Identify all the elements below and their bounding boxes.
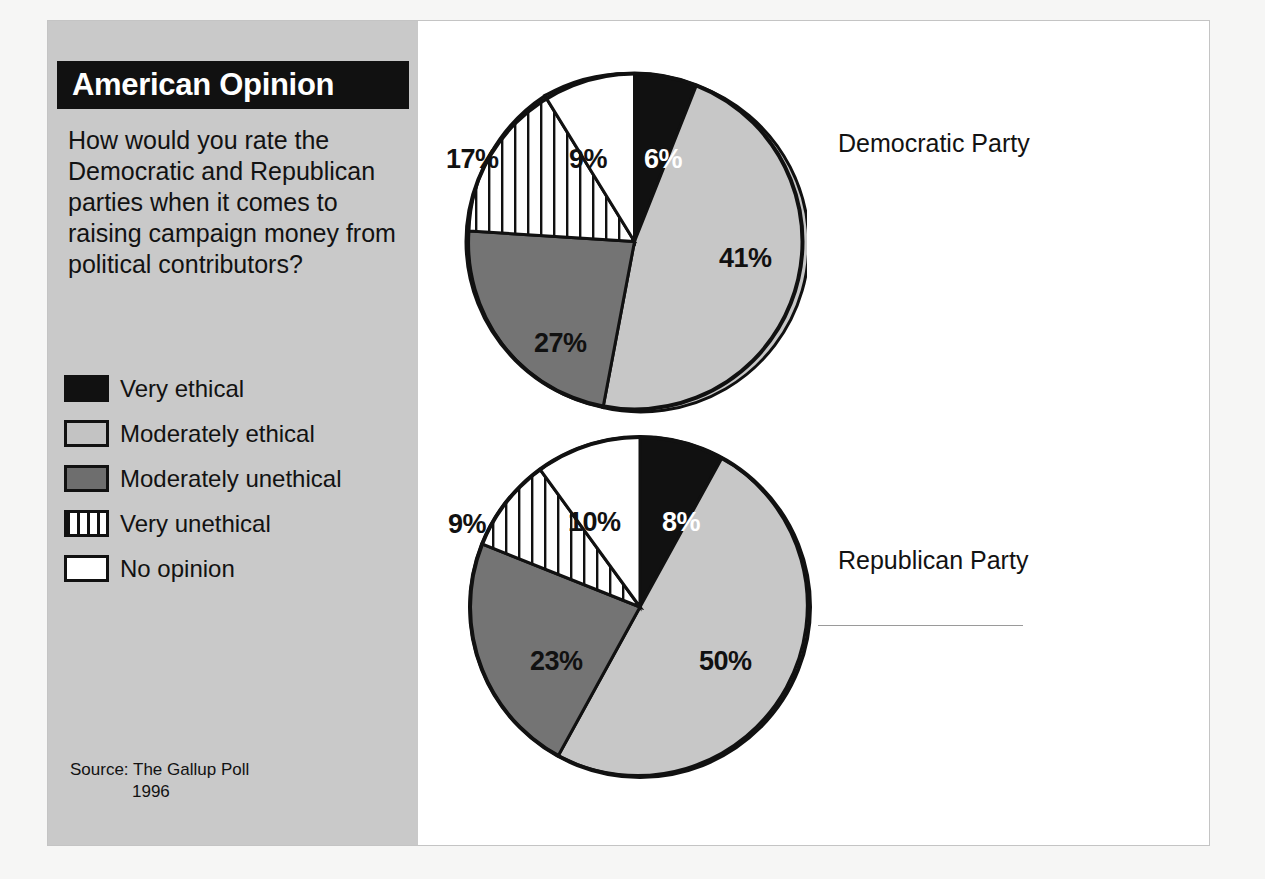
pie-svg-republican [466,433,814,781]
pct-rep-moderately-ethical: 50% [699,646,752,677]
legend-swatch-moderately-ethical [64,420,109,447]
infographic-figure: American Opinion How would you rate the … [47,20,1210,846]
legend-label-very-unethical: Very unethical [120,510,271,538]
horizontal-rule-artifact [818,625,1023,626]
chart-title-democratic: Democratic Party [838,129,1030,158]
pie-svg-democratic [462,69,807,414]
page-title: American Opinion [72,67,334,103]
source-year: 1996 [132,781,400,803]
pct-dem-no-opinion: 9% [569,144,607,175]
sidebar-panel: American Opinion How would you rate the … [48,21,418,845]
legend-item-very-unethical: Very unethical [64,501,414,546]
legend-item-very-ethical: Very ethical [64,366,414,411]
legend: Very ethical Moderately ethical Moderate… [64,366,414,591]
source-note: Source: The Gallup Poll 1996 [70,759,400,803]
pct-dem-very-ethical: 6% [644,144,682,175]
title-bar: American Opinion [57,61,409,109]
legend-item-moderately-ethical: Moderately ethical [64,411,414,456]
pct-dem-moderately-unethical: 27% [534,328,587,359]
legend-item-no-opinion: No opinion [64,546,414,591]
pct-dem-very-unethical: 17% [446,144,499,175]
legend-label-moderately-unethical: Moderately unethical [120,465,341,493]
pie-chart-democratic [462,69,807,414]
legend-item-moderately-unethical: Moderately unethical [64,456,414,501]
legend-label-no-opinion: No opinion [120,555,235,583]
pie-chart-republican [466,433,814,781]
pct-dem-moderately-ethical: 41% [719,243,772,274]
question-text: How would you rate the Democratic and Re… [68,125,408,280]
pct-rep-very-ethical: 8% [662,507,700,538]
pct-rep-very-unethical: 9% [448,509,486,540]
chart-title-republican: Republican Party [838,546,1028,575]
source-label: Source: The Gallup Poll [70,760,249,779]
legend-swatch-very-unethical [64,510,109,537]
legend-swatch-very-ethical [64,375,109,402]
pct-rep-no-opinion: 10% [568,507,621,538]
legend-label-very-ethical: Very ethical [120,375,244,403]
legend-swatch-moderately-unethical [64,465,109,492]
legend-swatch-no-opinion [64,555,109,582]
legend-label-moderately-ethical: Moderately ethical [120,420,315,448]
pct-rep-moderately-unethical: 23% [530,646,583,677]
